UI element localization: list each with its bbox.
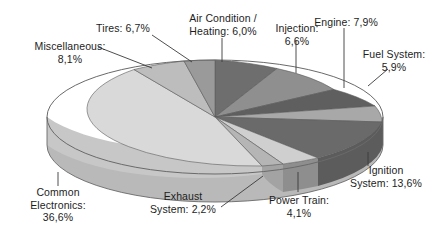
label-miscellaneous: Miscellaneous: 8,1% [10,40,130,65]
label-common-electronics: Common Electronics: 36,6% [12,186,104,224]
label-engine: Engine: 7,9% [305,16,387,29]
label-ignition-system: Ignition System: 13,6% [340,164,432,189]
label-exhaust-system: Exhaust System: 2,2% [140,190,226,215]
label-power-train: Power Train: 4,1% [258,194,340,219]
pie-chart-page: Miscellaneous: 8,1% Tires: 6,7% Air Cond… [0,0,434,232]
label-fuel-system: Fuel System: 5,9% [355,48,433,73]
label-tires: Tires: 6,7% [78,22,168,35]
leader-tires [152,35,192,62]
